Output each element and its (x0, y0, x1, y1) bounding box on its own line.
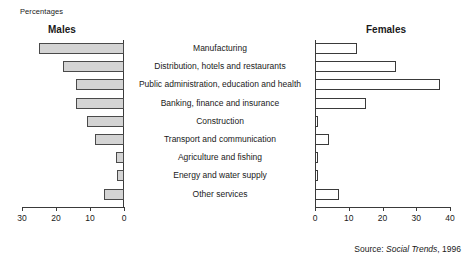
bar-females-6 (315, 152, 318, 163)
bar-females-5 (315, 134, 329, 145)
bar-males-0 (39, 43, 124, 54)
bar-females-1 (315, 61, 396, 72)
category-label-2: Public administration, education and hea… (128, 79, 312, 90)
bar-males-2 (76, 79, 124, 90)
source-prefix: Source: (354, 244, 383, 254)
tick-label-females-0: 0 (313, 213, 318, 223)
category-label-7: Energy and water supply (128, 170, 312, 181)
plot-area-males (22, 40, 124, 207)
bar-females-0 (315, 43, 357, 54)
tick-females-20 (383, 207, 384, 211)
category-label-3: Banking, finance and insurance (128, 98, 312, 109)
tick-label-females-20: 20 (378, 213, 387, 223)
tick-label-males-30: 30 (17, 213, 26, 223)
tick-males-30 (22, 207, 23, 211)
category-label-8: Other services (128, 189, 312, 200)
tick-females-40 (450, 207, 451, 211)
tick-females-30 (416, 207, 417, 211)
x-axis-females: 010203040 (315, 207, 450, 208)
source-publication: Social Trends (386, 244, 437, 254)
category-label-4: Construction (128, 116, 312, 127)
bar-males-1 (63, 61, 124, 72)
category-label-1: Distribution, hotels and restaurants (128, 61, 312, 72)
bar-males-3 (76, 98, 124, 109)
tick-females-10 (349, 207, 350, 211)
category-label-6: Agriculture and fishing (128, 152, 312, 163)
chart-container: Percentages Males Females 3020100 010203… (0, 0, 473, 264)
tick-males-0 (124, 207, 125, 211)
units-label: Percentages (20, 7, 63, 16)
bar-males-5 (95, 134, 124, 145)
tick-label-females-10: 10 (344, 213, 353, 223)
panel-title-males: Males (48, 24, 76, 35)
bar-males-6 (116, 152, 125, 163)
tick-label-females-30: 30 (412, 213, 421, 223)
bar-females-4 (315, 116, 318, 127)
tick-label-males-10: 10 (85, 213, 94, 223)
category-label-0: Manufacturing (128, 43, 312, 54)
source-note: Source: Social Trends, 1996 (354, 244, 461, 254)
tick-label-males-0: 0 (122, 213, 127, 223)
category-label-column: ManufacturingDistribution, hotels and re… (128, 40, 312, 207)
panel-title-females: Females (366, 24, 406, 35)
source-suffix: , 1996 (437, 244, 461, 254)
tick-males-10 (90, 207, 91, 211)
bar-females-2 (315, 79, 440, 90)
tick-label-males-20: 20 (51, 213, 60, 223)
bar-males-8 (104, 189, 124, 200)
category-label-5: Transport and communication (128, 134, 312, 145)
bar-females-7 (315, 170, 318, 181)
bar-males-7 (117, 170, 124, 181)
tick-females-0 (315, 207, 316, 211)
tick-label-females-40: 40 (445, 213, 454, 223)
x-axis-males: 3020100 (22, 207, 124, 208)
bar-females-3 (315, 98, 366, 109)
plot-area-females (315, 40, 450, 207)
bar-females-8 (315, 189, 339, 200)
tick-males-20 (56, 207, 57, 211)
bar-males-4 (87, 116, 124, 127)
